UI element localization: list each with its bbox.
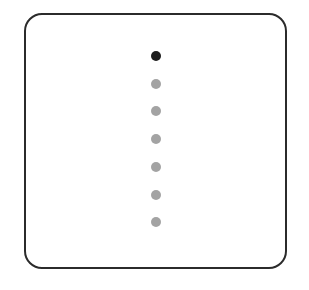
page-dot-5[interactable] — [151, 162, 161, 172]
page-dot-6[interactable] — [151, 190, 161, 200]
vertical-page-indicator — [0, 0, 309, 290]
page-dot-4[interactable] — [151, 134, 161, 144]
page-dot-2[interactable] — [151, 79, 161, 89]
page-dot-3[interactable] — [151, 106, 161, 116]
page-dot-active[interactable] — [151, 51, 161, 61]
page-dot-7[interactable] — [151, 217, 161, 227]
